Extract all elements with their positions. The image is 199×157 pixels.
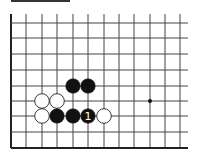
white-stone (35, 109, 50, 124)
black-stone (50, 109, 65, 124)
black-stone (66, 79, 81, 94)
white-stone (97, 109, 112, 124)
white-stone (35, 94, 50, 109)
white-stone (50, 94, 65, 109)
move-number-label: 1 (85, 110, 92, 123)
black-stone (81, 79, 96, 94)
black-stone (66, 109, 81, 124)
star-point (148, 99, 152, 103)
go-board: 1 (0, 0, 199, 157)
